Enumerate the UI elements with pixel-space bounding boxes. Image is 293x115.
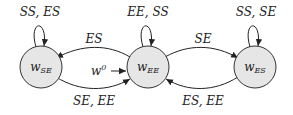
edge-label-se-ee: SE, EE [73,94,115,108]
self-loop-label-w-es: SS, SE [236,5,277,19]
self-loop-w-ee [141,26,151,47]
state-w-ee: wEE [127,46,169,88]
self-loop-w-se [34,26,44,47]
edge-label-ee-se: ES [85,32,103,46]
edge-label-es-ee: ES, EE [181,94,224,108]
edge-label-ee-es: SE [195,32,212,46]
self-loop-label-w-ee: EE, SS [126,5,168,19]
initial-label: w0 [91,63,106,78]
edge-w-ee-to-w-se [56,47,130,58]
self-loop-w-es [248,26,258,47]
edge-w-ee-to-w-es [165,47,238,58]
self-loop-label-w-se: SS, ES [20,5,60,19]
edge-w-es-to-w-ee [166,77,238,89]
state-w-es: wES [234,46,276,88]
edge-w-se-to-w-ee [56,77,130,89]
state-diagram: w0 wSE wEE wES SS, ES EE, SS SS, SE ES S… [0,0,293,115]
state-w-se: wSE [20,46,62,88]
